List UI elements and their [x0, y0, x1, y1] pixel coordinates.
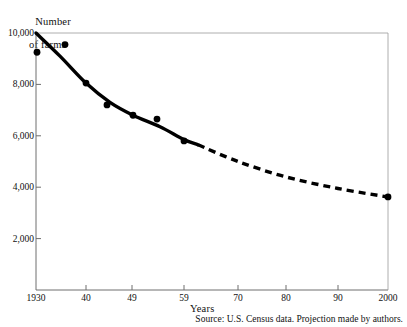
y-tick-label: 4,000 [13, 182, 34, 192]
y-tick-label: 6,000 [13, 131, 34, 141]
data-point-dot [154, 116, 161, 123]
x-tick-label: 70 [233, 293, 243, 303]
data-point-dot [104, 102, 111, 109]
y-tick-label: 10,000 [8, 28, 34, 38]
x-tick-label: 1930 [27, 293, 46, 303]
x-tick-label: 59 [179, 293, 189, 303]
data-point-dot [83, 80, 90, 87]
data-point-dot [130, 112, 137, 119]
source-note: Source: U.S. Census data. Projection mad… [195, 313, 403, 325]
data-point-dot [34, 49, 41, 56]
data-point-dot [62, 41, 69, 48]
data-point-dot [181, 138, 188, 145]
observed-trend-line [36, 33, 198, 145]
x-tick-label: 2000 [379, 293, 398, 303]
y-axis-tick-marks [36, 84, 41, 238]
x-tick-label: 49 [127, 293, 137, 303]
axes [36, 33, 388, 290]
data-point-dot [385, 194, 392, 201]
data-point-markers [34, 41, 392, 200]
x-axis-tick-marks [86, 285, 338, 290]
y-tick-label: 8,000 [13, 79, 34, 89]
farm-population-chart: Number of farms Years 10,0008,0006,0004,… [0, 0, 407, 327]
x-tick-label: 90 [333, 293, 343, 303]
projected-trend-line [198, 145, 388, 197]
x-tick-label: 80 [281, 293, 291, 303]
x-tick-label: 40 [81, 293, 91, 303]
plot-area [0, 0, 407, 327]
y-tick-label: 2,000 [13, 234, 34, 244]
